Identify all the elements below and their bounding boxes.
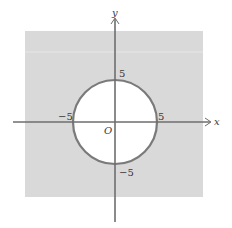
origin-label: O <box>104 125 112 136</box>
tick-label-y-neg: −5 <box>119 167 134 178</box>
tick-label-x-neg: −5 <box>58 111 73 122</box>
circle-region-diagram: x y O 5 −5 −5 5 <box>0 0 232 228</box>
tick-label-y-pos: 5 <box>119 68 125 79</box>
tick-label-x-pos: 5 <box>158 111 164 122</box>
x-axis-label: x <box>214 116 220 127</box>
y-axis-label: y <box>111 7 118 18</box>
